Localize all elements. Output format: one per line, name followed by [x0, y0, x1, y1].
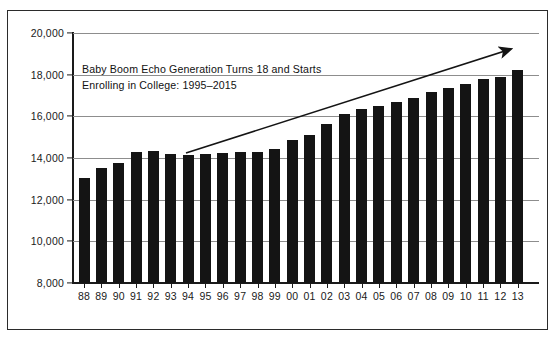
- x-tick-mark: [310, 284, 311, 288]
- bar: [408, 98, 419, 283]
- bar: [426, 92, 437, 283]
- bar: [321, 124, 332, 283]
- x-tick-mark: [258, 284, 259, 288]
- gridline: [73, 33, 539, 34]
- bar: [183, 155, 194, 283]
- x-tick-mark: [171, 284, 172, 288]
- bar: [443, 88, 454, 283]
- bar: [495, 77, 506, 283]
- bar: [113, 163, 124, 283]
- x-tick-mark: [327, 284, 328, 288]
- bar: [200, 154, 211, 283]
- x-tick-label: 13: [507, 290, 529, 302]
- x-tick-mark: [136, 284, 137, 288]
- x-tick-mark: [188, 284, 189, 288]
- y-tick-label: 20,000: [31, 27, 64, 39]
- bar: [391, 102, 402, 283]
- annotation-line-1: Baby Boom Echo Generation Turns 18 and S…: [82, 62, 321, 78]
- bar: [373, 106, 384, 283]
- x-tick-mark: [396, 284, 397, 288]
- x-tick-mark: [518, 284, 519, 288]
- bar: [96, 168, 107, 283]
- bar: [235, 152, 246, 283]
- bar: [131, 152, 142, 283]
- bar: [269, 149, 280, 283]
- y-tick-label: 8,000: [37, 277, 64, 289]
- x-tick-mark: [205, 284, 206, 288]
- x-tick-mark: [240, 284, 241, 288]
- y-tick-label: 12,000: [31, 194, 64, 206]
- x-tick-mark: [448, 284, 449, 288]
- x-tick-mark: [431, 284, 432, 288]
- annotation-line-2: Enrolling in College: 1995–2015: [82, 78, 321, 94]
- bar: [512, 70, 523, 283]
- x-tick-mark: [119, 284, 120, 288]
- y-tick-label: 18,000: [31, 69, 64, 81]
- bar: [339, 114, 350, 283]
- bar: [165, 154, 176, 283]
- x-tick-mark: [292, 284, 293, 288]
- x-tick-mark: [362, 284, 363, 288]
- bar: [356, 109, 367, 283]
- bar: [460, 84, 471, 283]
- bar: [148, 151, 159, 283]
- y-axis-tick-labels: 20,000 18,000 16,000 14,000 12,000 10,00…: [0, 0, 64, 341]
- x-tick-mark: [275, 284, 276, 288]
- bar: [304, 135, 315, 283]
- y-tick-label: 14,000: [31, 152, 64, 164]
- bar: [478, 79, 489, 283]
- x-tick-mark: [379, 284, 380, 288]
- x-tick-mark: [500, 284, 501, 288]
- y-tick-label: 10,000: [31, 235, 64, 247]
- y-tick-label: 16,000: [31, 110, 64, 122]
- x-tick-mark: [414, 284, 415, 288]
- bar: [79, 178, 90, 283]
- x-tick-mark: [466, 284, 467, 288]
- x-tick-mark: [84, 284, 85, 288]
- bar: [217, 153, 228, 283]
- x-tick-mark: [344, 284, 345, 288]
- bar: [287, 140, 298, 283]
- x-tick-mark: [153, 284, 154, 288]
- x-tick-mark: [223, 284, 224, 288]
- baby-boom-echo-note: Baby Boom Echo Generation Turns 18 and S…: [82, 62, 321, 93]
- x-tick-mark: [483, 284, 484, 288]
- bar: [252, 152, 263, 283]
- x-tick-mark: [101, 284, 102, 288]
